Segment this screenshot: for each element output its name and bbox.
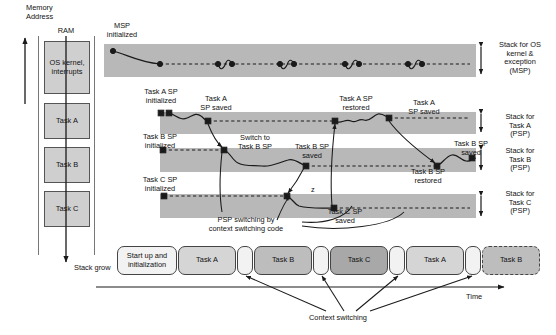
context-switching-leaders <box>246 276 472 311</box>
diagram-vector-layer <box>0 0 556 335</box>
task-a-stack-trace <box>158 110 470 124</box>
msp-stack-trace <box>110 48 470 68</box>
task-c-stack-trace <box>161 193 470 211</box>
context-switch-connectors <box>208 121 435 228</box>
